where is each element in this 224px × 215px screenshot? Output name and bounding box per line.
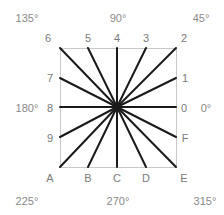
point-label: 3 [143, 33, 149, 44]
point-label: C [113, 173, 121, 184]
ray-B [88, 107, 117, 167]
ray-D [117, 107, 146, 167]
angle-label: 315° [194, 196, 217, 207]
direction-diagram: 6543271809FABCDE135°90°45°180°0°225°270°… [0, 0, 224, 215]
ray-5 [88, 48, 117, 107]
angle-label: 0° [201, 103, 212, 114]
point-label: 0 [181, 103, 187, 114]
ray-6 [60, 48, 117, 107]
center-hub [115, 105, 120, 110]
angle-label: 180° [16, 103, 39, 114]
point-label: 7 [47, 73, 53, 84]
point-label: 8 [47, 103, 53, 114]
point-label: F [182, 133, 189, 144]
ray-1 [117, 78, 176, 107]
point-label: D [142, 173, 150, 184]
ray-9 [60, 107, 117, 137]
ray-A [60, 107, 117, 167]
point-label: 1 [182, 73, 188, 84]
point-label: 2 [181, 33, 187, 44]
point-label: 4 [114, 33, 120, 44]
point-label: E [180, 173, 187, 184]
point-label: 5 [85, 33, 91, 44]
angle-label: 270° [107, 196, 130, 207]
point-label: 6 [45, 33, 51, 44]
ray-2 [117, 48, 176, 107]
ray-E [117, 107, 176, 167]
angle-label: 45° [193, 13, 210, 24]
ray-7 [60, 78, 117, 107]
ray-F [117, 107, 176, 137]
point-label: B [84, 173, 91, 184]
point-label: A [46, 173, 53, 184]
ray-3 [117, 48, 146, 107]
point-label: 9 [47, 133, 53, 144]
angle-label: 135° [16, 13, 39, 24]
angle-label: 90° [110, 13, 127, 24]
angle-label: 225° [16, 196, 39, 207]
